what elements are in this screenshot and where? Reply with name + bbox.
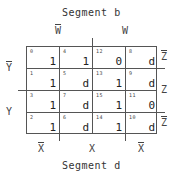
cell-index: 4 [63, 48, 67, 54]
cell-index: 2 [30, 114, 34, 120]
cell-index: 8 [129, 48, 133, 54]
cell-value: 1 [49, 99, 56, 112]
cell-index: 11 [129, 92, 136, 98]
cell-index: 10 [129, 114, 136, 120]
kmap-cell: 14 1 [93, 113, 126, 135]
title-segment-d: Segment d [62, 160, 121, 171]
cell-value: 0 [148, 99, 155, 112]
kmap-cell: 11 0 [126, 91, 159, 113]
kmap-cell: 9 d [126, 69, 159, 91]
kmap-cell: 12 0 [93, 47, 126, 69]
cell-index: 3 [30, 92, 34, 98]
label-x-bar-left: X [38, 143, 44, 154]
cell-index: 14 [96, 114, 103, 120]
karnaugh-map: 0 1 4 1 12 0 8 d 1 1 5 d 13 1 9 d 3 1 7 … [26, 46, 157, 134]
cell-index: 6 [63, 114, 67, 120]
cell-index: 15 [96, 92, 103, 98]
cell-index: 9 [129, 70, 133, 76]
cell-value: 1 [49, 55, 56, 68]
cell-value: 1 [49, 77, 56, 90]
label-w-bar: W [55, 25, 61, 36]
kmap-cell: 6 d [60, 113, 93, 135]
kmap-cell: 15 1 [93, 91, 126, 113]
kmap-cell: 8 d [126, 47, 159, 69]
cell-value: d [148, 77, 155, 90]
label-y-bar: Y [6, 62, 12, 73]
cell-index: 1 [30, 70, 34, 76]
cell-index: 12 [96, 48, 103, 54]
cell-value: d [82, 77, 89, 90]
cell-index: 13 [96, 70, 103, 76]
cell-index: 0 [30, 48, 34, 54]
kmap-cell: 2 1 [27, 113, 60, 135]
label-y: Y [6, 106, 12, 117]
cell-index: 7 [63, 92, 67, 98]
title-segment-b: Segment b [62, 7, 121, 18]
kmap-cell: 10 d [126, 113, 159, 135]
label-x-bar-right: X [138, 143, 144, 154]
cell-index: 5 [63, 70, 67, 76]
label-x: X [89, 143, 95, 154]
cell-value: d [82, 121, 89, 134]
kmap-cell: 7 d [60, 91, 93, 113]
cell-value: 1 [115, 77, 122, 90]
cell-value: d [148, 55, 155, 68]
label-z-bar-top: Z [161, 51, 167, 62]
kmap-cell: 1 1 [27, 69, 60, 91]
kmap-cell: 13 1 [93, 69, 126, 91]
cell-value: d [148, 121, 155, 134]
cell-value: 0 [115, 55, 122, 68]
kmap-cell: 4 1 [60, 47, 93, 69]
cell-value: 1 [115, 121, 122, 134]
label-z-bar-bottom: Z [161, 117, 167, 128]
kmap-cell: 5 d [60, 69, 93, 91]
label-w: W [122, 25, 128, 36]
cell-value: d [82, 99, 89, 112]
kmap-cell: 3 1 [27, 91, 60, 113]
cell-value: 1 [115, 99, 122, 112]
label-z: Z [161, 84, 167, 95]
kmap-cell: 0 1 [27, 47, 60, 69]
cell-value: 1 [49, 121, 56, 134]
cell-value: 1 [82, 55, 89, 68]
